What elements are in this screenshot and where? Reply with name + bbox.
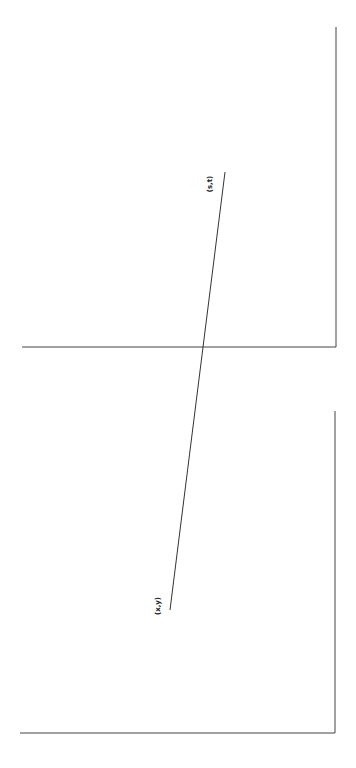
end-point-label: (s,t) (206, 176, 214, 193)
diagram-canvas: (s,t) (x,y) (0, 0, 356, 768)
segment-line (170, 172, 225, 610)
start-point-label: (x,y) (154, 597, 162, 615)
